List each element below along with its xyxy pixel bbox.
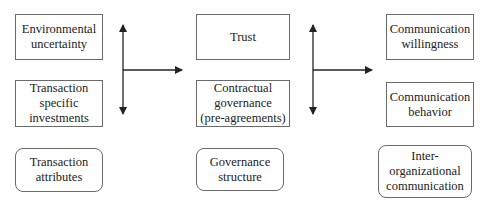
connector-arrows — [0, 0, 487, 203]
connector-1 — [123, 25, 182, 114]
connector-2 — [313, 25, 372, 114]
